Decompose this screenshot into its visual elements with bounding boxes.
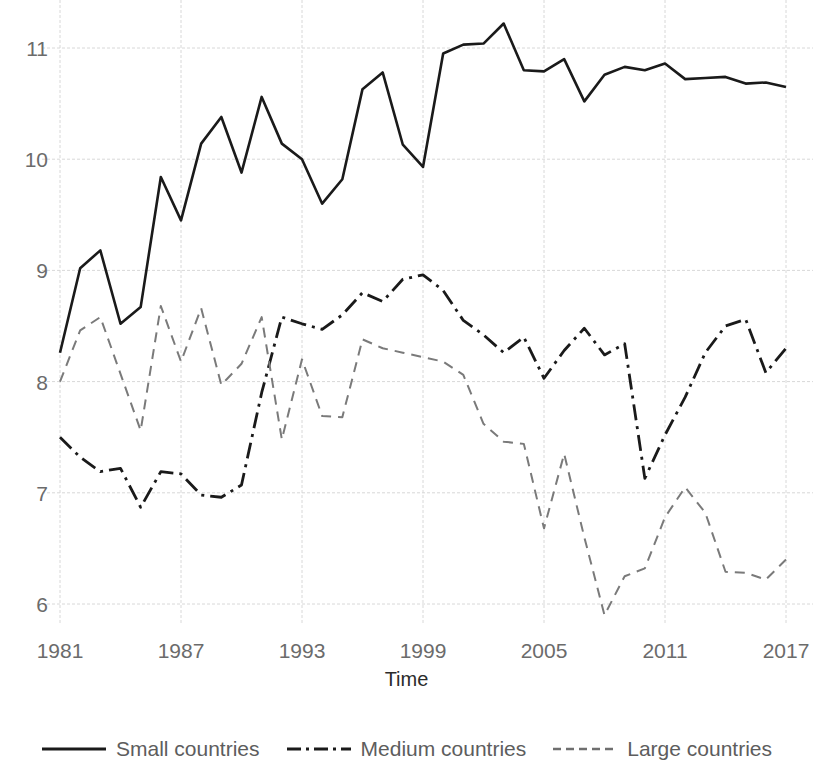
x-tick-label: 1981 [37, 640, 84, 661]
y-tick-label: 6 [8, 594, 48, 615]
y-axis-tick-labels: 67891011 [0, 0, 48, 640]
legend-key-line-dashdot [286, 742, 352, 756]
x-tick-label: 2017 [763, 640, 810, 661]
x-tick-label: 1993 [279, 640, 326, 661]
legend-item[interactable]: Small countries [41, 738, 260, 759]
y-tick-label: 8 [8, 371, 48, 392]
x-tick-label: 2005 [521, 640, 568, 661]
legend-label: Large countries [627, 738, 772, 759]
plot-svg [0, 0, 813, 640]
x-axis-title: Time [0, 668, 813, 691]
y-tick-label: 7 [8, 482, 48, 503]
x-tick-label: 1999 [400, 640, 447, 661]
y-tick-label: 10 [8, 149, 48, 170]
legend-label: Small countries [116, 738, 260, 759]
chart-legend: Small countriesMedium countriesLarge cou… [0, 738, 813, 759]
gridlines-vertical [60, 0, 786, 625]
legend-item[interactable]: Large countries [552, 738, 772, 759]
y-tick-label: 9 [8, 260, 48, 281]
legend-item[interactable]: Medium countries [286, 738, 527, 759]
legend-key-line-solid [41, 742, 107, 756]
x-tick-label: 2011 [642, 640, 687, 661]
legend-label: Medium countries [361, 738, 527, 759]
x-tick-label: 1987 [158, 640, 205, 661]
line-chart-figure: 67891011 1981198719931999200520112017 Ti… [0, 0, 813, 769]
y-tick-label: 11 [8, 38, 48, 59]
legend-key-line-dashed [552, 742, 618, 756]
gridlines-horizontal [42, 48, 813, 604]
plot-area: 67891011 [0, 0, 813, 640]
